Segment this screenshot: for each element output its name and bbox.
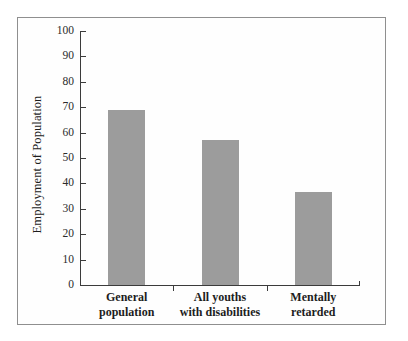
y-axis-tick-label-text: 90 — [42, 50, 74, 62]
y-axis-tick-label-text: 20 — [42, 228, 74, 240]
y-axis-tick-label-text: 0 — [42, 279, 74, 291]
y-axis-tick-mark — [80, 82, 86, 83]
y-axis-tick-label-text: 40 — [42, 177, 74, 189]
x-axis-category-label-line: All youths — [173, 290, 266, 305]
y-axis-tick-label: 20 — [42, 228, 74, 240]
y-axis-tick-label: 90 — [42, 50, 74, 62]
y-axis-tick-label: 10 — [42, 254, 74, 266]
y-axis-tick-label-text: 50 — [42, 152, 74, 164]
y-axis-tick-label: 40 — [42, 177, 74, 189]
x-axis-end-cap — [359, 281, 360, 286]
y-axis-tick-mark — [80, 133, 86, 134]
y-axis-tick-label-text: 70 — [42, 101, 74, 113]
bar — [108, 110, 145, 285]
x-axis-category-label: Generalpopulation — [80, 290, 173, 320]
y-axis-tick-label: 30 — [42, 203, 74, 215]
y-axis-tick-mark — [80, 158, 86, 159]
y-axis-tick-mark — [80, 31, 86, 32]
bar — [295, 192, 332, 285]
y-axis-tick-mark — [80, 183, 86, 184]
x-axis-line — [80, 285, 360, 286]
y-axis-tick-mark — [80, 285, 86, 286]
x-axis-category-label-line: Mentally — [267, 290, 360, 305]
x-axis-category-label: All youthswith disabilities — [173, 290, 266, 320]
x-axis-category-label-line: with disabilities — [173, 305, 266, 320]
y-axis-tick-label: 80 — [42, 76, 74, 88]
x-axis-category-label-line: retarded — [267, 305, 360, 320]
y-axis-tick-label-text: 100 — [42, 25, 74, 37]
y-axis-tick-label: 60 — [42, 127, 74, 139]
y-axis-tick-label: 50 — [42, 152, 74, 164]
bar — [202, 140, 239, 285]
y-axis-tick-label-text: 10 — [42, 254, 74, 266]
y-axis-tick-mark — [80, 56, 86, 57]
y-axis-tick-label-text: 60 — [42, 127, 74, 139]
y-axis-tick-label-text: 80 — [42, 76, 74, 88]
y-axis-title: Employment of Population — [30, 65, 45, 265]
y-axis-tick-label: 100 — [42, 25, 74, 37]
x-axis-category-label: Mentallyretarded — [267, 290, 360, 320]
bar-chart-plot-area: 1009080706050403020100 Generalpopulation… — [0, 0, 408, 341]
y-axis-tick-mark — [80, 209, 86, 210]
y-axis-tick-mark — [80, 260, 86, 261]
y-axis-tick-label-text: 30 — [42, 203, 74, 215]
y-axis-tick-label: 0 — [42, 279, 74, 291]
x-axis-category-label-line: population — [80, 305, 173, 320]
y-axis-tick-mark — [80, 107, 86, 108]
y-axis-tick-label: 70 — [42, 101, 74, 113]
x-axis-category-label-line: General — [80, 290, 173, 305]
y-axis-tick-mark — [80, 234, 86, 235]
